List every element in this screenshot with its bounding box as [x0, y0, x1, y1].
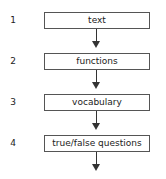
step-number: 1	[8, 14, 18, 26]
step-box-vocabulary: vocabulary	[44, 94, 150, 111]
step-number: 3	[8, 96, 18, 108]
step-box-true-false-questions: true/false questions	[44, 135, 150, 152]
step-number: 4	[8, 137, 18, 149]
step-number: 2	[8, 55, 18, 67]
step-box-functions: functions	[44, 53, 150, 70]
step-box-text: text	[44, 12, 150, 29]
